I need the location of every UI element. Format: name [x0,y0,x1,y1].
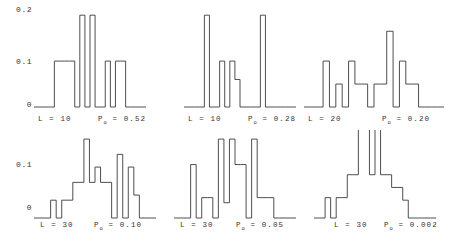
caption-P-subscript-2: o [254,119,257,126]
caption-P-panel-4: Po = 0.10 [94,221,142,232]
caption-L-panel-3: L = 20 [308,115,342,123]
panel-plot-1 [34,2,146,110]
histogram-figure: 0.2 0.1 0 0.1 0 L = 10 Po = 0.52 L = 10 … [0,0,450,244]
panel-plot-3 [304,2,444,110]
caption-P-value-4: = 0.10 [109,221,143,229]
caption-P-subscript-3: o [388,119,391,126]
panel-plot-5 [174,130,296,221]
caption-P-panel-6: Po = 0.002 [384,221,438,232]
ytick-top-0.2: 0.2 [6,5,32,14]
ytick-top-0.1: 0.1 [6,57,32,66]
ytick-bottom-0.1: 0.1 [6,160,32,169]
caption-P-value-2: = 0.28 [263,115,297,123]
ytick-top-0: 0 [6,100,32,109]
caption-P-subscript-1: o [104,119,107,126]
caption-P-panel-1: Po = 0.52 [98,115,146,126]
caption-P-subscript-6: o [390,225,393,232]
caption-P-panel-3: Po = 0.20 [382,115,430,126]
caption-L-panel-1: L = 10 [38,115,72,123]
caption-L-panel-4: L = 30 [40,221,74,229]
caption-P-value-1: = 0.52 [113,115,147,123]
caption-L-panel-6: L = 30 [334,221,368,229]
caption-P-value-6: = 0.002 [399,221,438,229]
caption-L-panel-5: L = 30 [180,221,214,229]
panel-plot-2 [184,2,296,110]
caption-P-subscript-4: o [100,225,103,232]
caption-P-panel-2: Po = 0.28 [248,115,296,126]
panel-plot-6 [314,130,436,221]
caption-P-subscript-5: o [242,225,245,232]
caption-P-panel-5: Po = 0.05 [236,221,284,232]
caption-L-panel-2: L = 10 [188,115,222,123]
ytick-bottom-0: 0 [6,203,32,212]
caption-P-value-3: = 0.20 [397,115,431,123]
caption-P-value-5: = 0.05 [251,221,285,229]
panel-plot-4 [34,130,156,221]
